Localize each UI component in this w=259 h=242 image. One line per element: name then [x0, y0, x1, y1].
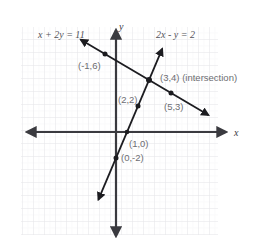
x-axis-label: x — [233, 127, 239, 138]
point-label-5-3: (5,3) — [164, 101, 184, 112]
point-label-neg1-6: (-1,6) — [78, 60, 101, 71]
equation-label-right: 2x - y = 2 — [156, 29, 195, 40]
point-label-2-2: (2,2) — [118, 94, 138, 105]
point-marker-0-neg2 — [114, 156, 119, 161]
point-marker-neg1-6 — [103, 52, 108, 57]
equation-label-left: x + 2y = 11 — [37, 29, 85, 40]
intersection-point-marker — [146, 77, 152, 83]
y-axis-label: y — [118, 21, 124, 32]
point-marker-1-0 — [125, 130, 130, 135]
graph-figure: x y x + 2y = 11 2x - y = 2 (-1,6) (3,4) … — [0, 0, 259, 242]
coordinate-plane-svg: x y x + 2y = 11 2x - y = 2 (-1,6) (3,4) … — [0, 0, 259, 242]
point-label-0-neg2: (0,-2) — [121, 152, 144, 163]
point-label-intersection: (3,4) (intersection) — [160, 72, 237, 83]
point-marker-5-3 — [169, 91, 174, 96]
point-label-1-0: (1,0) — [129, 138, 149, 149]
